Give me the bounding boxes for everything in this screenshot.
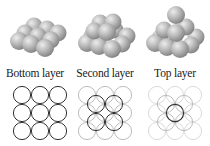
label-second-layer: Second layer — [70, 67, 140, 79]
sphere-stack-top-icon — [140, 0, 210, 62]
circle-grid-bottom-icon — [0, 84, 70, 144]
circle-grid-second-icon — [70, 84, 140, 144]
panel-top-layer: Top layer — [140, 0, 210, 146]
label-top-layer: Top layer — [140, 67, 210, 79]
label-bottom-layer: Bottom layer — [0, 67, 70, 79]
sphere-stack-bottom-icon — [0, 0, 70, 62]
panel-bottom-layer: Bottom layer — [0, 0, 70, 146]
panel-second-layer: Second layer — [70, 0, 140, 146]
sphere-stack-second-icon — [70, 0, 140, 62]
circle-grid-top-icon — [140, 84, 210, 144]
